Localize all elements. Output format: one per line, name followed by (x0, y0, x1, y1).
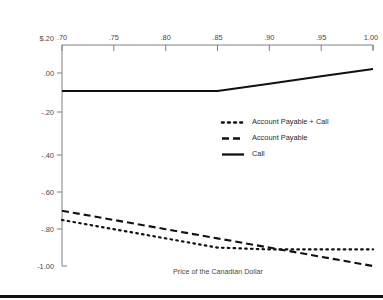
y-tick-label-5: -.80 (41, 225, 54, 234)
line-chart: .70 .75 .80 .85 .90 .95 1.00 $.20 .00 -.… (0, 0, 383, 300)
x-tick-label-0: .70 (57, 33, 67, 42)
y-tick-marks (57, 73, 62, 229)
x-tick-label-3: .85 (212, 33, 222, 42)
x-axis-title: Price of the Canadian Dollar (173, 267, 263, 276)
y-tick-label-1: .00 (44, 69, 54, 78)
y-tick-label-3: -.40 (41, 151, 54, 160)
chart-figure: .70 .75 .80 .85 .90 .95 1.00 $.20 .00 -.… (0, 0, 383, 300)
series-account-payable (62, 211, 373, 266)
footer-rule (0, 295, 383, 298)
axes-group (62, 45, 373, 266)
y-tick-label-2: -.20 (41, 108, 54, 117)
series-group (62, 69, 373, 266)
x-tick-marks (62, 45, 373, 51)
x-tick-label-2: .80 (161, 33, 171, 42)
series-call (62, 69, 373, 91)
y-tick-labels: $.20 .00 -.20 -.40 -.60 -.80 -1.00 (37, 34, 54, 271)
series-account-payable-plus-call (62, 220, 373, 249)
y-tick-label-0: $.20 (40, 34, 54, 43)
chart-legend: Account Payable + Call Account Payable C… (222, 117, 329, 158)
legend-label-account-payable: Account Payable (252, 133, 307, 142)
legend-label-account-payable-plus-call: Account Payable + Call (252, 117, 329, 126)
x-tick-label-1: .75 (109, 33, 119, 42)
y-tick-label-6: -1.00 (37, 262, 54, 271)
legend-label-call: Call (252, 149, 265, 158)
x-tick-label-6: 1.00 (364, 33, 378, 42)
y-tick-label-4: -.60 (41, 188, 54, 197)
x-tick-label-5: .95 (316, 33, 326, 42)
x-tick-labels: .70 .75 .80 .85 .90 .95 1.00 (57, 33, 378, 42)
x-tick-label-4: .90 (264, 33, 274, 42)
